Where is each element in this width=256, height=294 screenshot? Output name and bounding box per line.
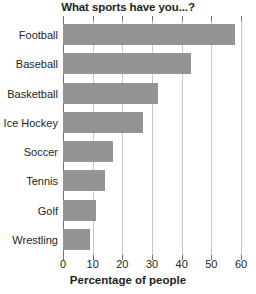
x-tick-label: 50 [205, 258, 217, 270]
bar[interactable] [63, 141, 113, 162]
chart-title: What sports have you...? [0, 1, 256, 13]
bar-row[interactable] [63, 50, 241, 79]
x-tick-label: 20 [116, 258, 128, 270]
category-label: Baseball [16, 50, 58, 79]
x-tick-label: 30 [146, 258, 158, 270]
category-label: Tennis [26, 167, 58, 196]
bar[interactable] [63, 170, 105, 191]
category-label: Ice Hockey [4, 109, 58, 138]
category-axis-labels: FootballBaseballBasketballIce HockeySocc… [0, 21, 61, 255]
category-label: Wrestling [12, 226, 58, 255]
x-axis-title: Percentage of people [0, 274, 256, 286]
bar[interactable] [63, 24, 235, 45]
x-tick-label: 60 [235, 258, 247, 270]
category-label: Soccer [24, 138, 58, 167]
category-label: Golf [38, 197, 58, 226]
bar-row[interactable] [63, 21, 241, 50]
bar-row[interactable] [63, 138, 241, 167]
gridline [241, 21, 242, 255]
bar[interactable] [63, 112, 143, 133]
category-label: Basketball [7, 80, 58, 109]
bar-row[interactable] [63, 109, 241, 138]
category-label: Football [19, 21, 58, 50]
bar[interactable] [63, 83, 158, 104]
x-tick-label: 40 [176, 258, 188, 270]
x-axis-tick-top [241, 16, 242, 21]
x-tick-label: 0 [60, 258, 66, 270]
x-tick-label: 10 [87, 258, 99, 270]
bar-series [63, 21, 241, 255]
bar-chart: What sports have you...? FootballBasebal… [0, 0, 256, 294]
bar-row[interactable] [63, 197, 241, 226]
bar[interactable] [63, 53, 191, 74]
bar-row[interactable] [63, 167, 241, 196]
bar-row[interactable] [63, 80, 241, 109]
bar[interactable] [63, 200, 96, 221]
bar[interactable] [63, 229, 90, 250]
x-axis-tick-labels: 0102030405060 [63, 258, 241, 274]
plot-area [63, 21, 241, 255]
bar-row[interactable] [63, 226, 241, 255]
